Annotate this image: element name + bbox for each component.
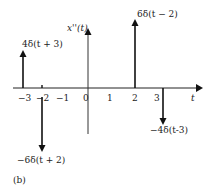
tick-label: 2 xyxy=(132,93,138,103)
t-axis-label: t xyxy=(191,93,195,103)
impulse-label: 6δ(t − 2) xyxy=(137,9,178,19)
impulse-diagram: −3 −2 −1 0 1 2 3 t x''(t) 4δ(t + 3) −6δ(… xyxy=(0,0,207,191)
tick-label: 1 xyxy=(107,93,113,103)
impulse-label: −6δ(t + 2) xyxy=(17,155,65,165)
tick-label: 3 xyxy=(154,93,160,103)
impulse-down-arrow-icon xyxy=(160,118,167,125)
tick-label: −2 xyxy=(36,93,49,103)
impulse-up-arrow-icon xyxy=(132,19,139,26)
t-axis-arrow-icon xyxy=(196,84,203,92)
impulse-label: −4δ(t-3) xyxy=(150,125,188,135)
impulse-label: 4δ(t + 3) xyxy=(22,39,63,49)
y-axis-label: x''(t) xyxy=(67,23,88,33)
panel-label: (b) xyxy=(13,175,26,185)
impulse-down-arrow-icon xyxy=(39,145,46,152)
tick-label: −1 xyxy=(56,93,69,103)
impulse-up-arrow-icon xyxy=(20,50,27,57)
tick-label: 0 xyxy=(83,93,89,103)
tick-label: −3 xyxy=(18,93,32,103)
